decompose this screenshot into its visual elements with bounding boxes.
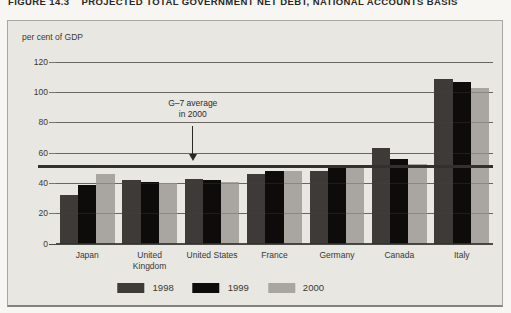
bar-2000-japan bbox=[96, 174, 114, 244]
plot-area: 020406080100120G–7 averagein 2000 bbox=[56, 62, 493, 244]
bar-2000-germany bbox=[346, 168, 364, 244]
g7-average-reference-line bbox=[38, 165, 493, 168]
bar-1998-italy bbox=[434, 79, 452, 244]
x-axis-baseline bbox=[56, 243, 493, 244]
x-axis-label-germany: Germany bbox=[308, 250, 366, 261]
x-axis-labels: JapanUnited KingdomUnited StatesFranceGe… bbox=[56, 250, 493, 276]
y-tick-label-100: 100 bbox=[15, 87, 48, 97]
x-axis-label-canada: Canada bbox=[370, 250, 428, 261]
legend-label-1998: 1998 bbox=[153, 282, 174, 293]
legend-item-2000: 2000 bbox=[268, 282, 343, 293]
y-tick-label-0: 0 bbox=[15, 239, 48, 249]
y-axis-unit-label: per cent of GDP bbox=[22, 32, 83, 42]
legend-label-1999: 1999 bbox=[228, 282, 249, 293]
gridline-overlay-y-60 bbox=[56, 153, 493, 154]
annotation-arrow-line bbox=[192, 126, 193, 154]
y-tick-label-40: 40 bbox=[15, 178, 48, 188]
bar-1999-germany bbox=[328, 168, 346, 244]
bar-1999-canada bbox=[390, 159, 408, 244]
y-tick-label-20: 20 bbox=[15, 208, 48, 218]
bar-1998-united-kingdom bbox=[122, 180, 140, 244]
gridline-overlay-y-120 bbox=[56, 62, 493, 63]
legend-swatch-1998 bbox=[118, 283, 145, 293]
x-axis-label-france: France bbox=[245, 250, 303, 261]
chart-panel: per cent of GDP 020406080100120G–7 avera… bbox=[7, 20, 503, 307]
x-axis-label-italy: Italy bbox=[433, 250, 491, 261]
g7-average-annotation: G–7 averagein 2000 bbox=[168, 98, 217, 120]
gridline-overlay-y-100 bbox=[56, 92, 493, 93]
figure-title: FIGURE 14.3PROJECTED TOTAL GOVERNMENT NE… bbox=[8, 0, 458, 7]
gridline-overlay-y-20 bbox=[56, 213, 493, 214]
bar-1998-united-states bbox=[185, 179, 203, 244]
annotation-arrow-head-icon bbox=[189, 154, 197, 161]
bar-1998-japan bbox=[60, 195, 78, 244]
bar-1998-france bbox=[247, 174, 265, 244]
figure-title-text: PROJECTED TOTAL GOVERNMENT NET DEBT, NAT… bbox=[81, 0, 457, 7]
annotation-line-2: in 2000 bbox=[168, 109, 217, 120]
x-axis-label-japan: Japan bbox=[58, 250, 116, 261]
legend-swatch-1999 bbox=[193, 283, 220, 293]
legend: 199819992000 bbox=[118, 282, 343, 293]
scanned-figure-page: FIGURE 14.3PROJECTED TOTAL GOVERNMENT NE… bbox=[0, 0, 511, 313]
bar-1999-united-states bbox=[203, 180, 221, 244]
y-tick-label-60: 60 bbox=[15, 148, 48, 158]
legend-swatch-2000 bbox=[268, 283, 295, 293]
legend-label-2000: 2000 bbox=[303, 282, 324, 293]
gridline-overlay-y-40 bbox=[56, 183, 493, 184]
legend-item-1999: 1999 bbox=[193, 282, 268, 293]
annotation-line-1: G–7 average bbox=[168, 98, 217, 109]
y-tick-label-80: 80 bbox=[15, 117, 48, 127]
bar-1998-canada bbox=[372, 148, 390, 244]
figure-number: FIGURE 14.3 bbox=[8, 0, 69, 7]
bar-1999-italy bbox=[453, 82, 471, 244]
y-tick-label-120: 120 bbox=[15, 57, 48, 67]
gridline-overlay-y-80 bbox=[56, 122, 493, 123]
bar-2000-canada bbox=[408, 164, 426, 244]
legend-item-1998: 1998 bbox=[118, 282, 193, 293]
x-axis-label-united-kingdom: United Kingdom bbox=[120, 250, 178, 272]
x-axis-label-united-states: United States bbox=[183, 250, 241, 261]
bar-1999-japan bbox=[78, 185, 96, 244]
